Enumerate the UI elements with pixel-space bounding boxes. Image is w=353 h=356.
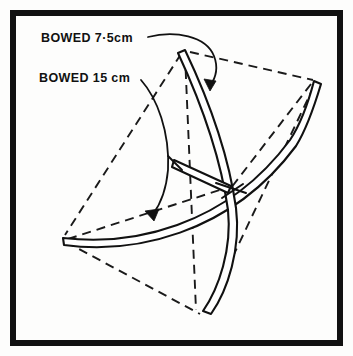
dashed-construction-lines	[65, 52, 314, 314]
technical-drawing-canvas	[0, 0, 353, 356]
dashed-edge-top-right	[190, 52, 313, 80]
leader-arrowhead-bowed-15	[145, 209, 159, 221]
bowed-member-left-right	[63, 81, 321, 247]
figure-frame-border	[13, 13, 340, 343]
annotation-label-bowed-7-5: BOWED 7·5cm	[41, 32, 133, 45]
dashed-edge-left-bottom	[66, 242, 200, 314]
leader-arrowhead-bowed-7-5	[204, 79, 216, 91]
annotation-label-bowed-15: BOWED 15 cm	[39, 72, 130, 85]
leader-curve-bowed-15	[141, 80, 168, 214]
figure-container: BOWED 7·5cm BOWED 15 cm	[0, 0, 353, 356]
